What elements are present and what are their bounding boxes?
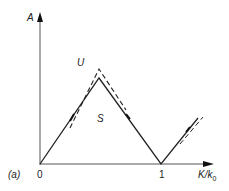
x-axis-label-main: K/k	[198, 169, 212, 180]
x-axis-arrow-icon	[203, 161, 214, 167]
region-upper-label: U	[77, 58, 84, 68]
tick-origin: 0	[37, 170, 43, 180]
region-lower-label: S	[97, 114, 104, 124]
solid-curve	[40, 78, 198, 164]
dashed-branch-right	[180, 117, 203, 144]
y-axis-arrow-icon	[37, 12, 43, 22]
panel-label: (a)	[8, 170, 20, 180]
y-axis-label: A	[27, 13, 34, 23]
x-axis-label-sub: 0	[212, 175, 216, 182]
diagram-canvas	[0, 0, 229, 191]
x-axis-label: K/k0	[198, 170, 216, 182]
tick-one: 1	[159, 170, 165, 180]
